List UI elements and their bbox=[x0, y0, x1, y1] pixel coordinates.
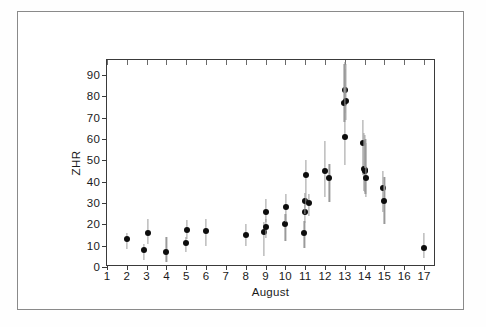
data-point bbox=[421, 245, 427, 251]
x-tick-label-6: 6 bbox=[203, 270, 210, 282]
figure-canvas: ZHR August 0102030405060708090 123456789… bbox=[0, 0, 486, 327]
data-point bbox=[163, 249, 169, 255]
error-bar bbox=[345, 69, 346, 165]
x-tick-label-10: 10 bbox=[279, 270, 292, 282]
x-tick-label-17: 17 bbox=[417, 270, 430, 282]
data-series-layer bbox=[107, 60, 434, 265]
data-point bbox=[363, 175, 369, 181]
error-bar bbox=[365, 143, 366, 196]
data-point bbox=[183, 240, 189, 246]
x-tick-label-9: 9 bbox=[262, 270, 269, 282]
x-tick-label-8: 8 bbox=[242, 270, 249, 282]
data-point bbox=[342, 134, 348, 140]
x-tick-label-3: 3 bbox=[143, 270, 150, 282]
y-tick-label-80: 80 bbox=[87, 90, 100, 102]
data-point bbox=[282, 221, 288, 227]
data-point bbox=[124, 236, 130, 242]
x-tick-label-7: 7 bbox=[223, 270, 230, 282]
x-tick-label-14: 14 bbox=[358, 270, 371, 282]
data-point bbox=[141, 247, 147, 253]
y-tick-label-30: 30 bbox=[87, 197, 100, 209]
data-point bbox=[184, 227, 190, 233]
data-point bbox=[306, 200, 312, 206]
x-tick-label-16: 16 bbox=[398, 270, 411, 282]
data-point bbox=[381, 198, 387, 204]
y-tick-label-60: 60 bbox=[87, 133, 100, 145]
data-point bbox=[263, 224, 269, 230]
data-point bbox=[301, 230, 307, 236]
x-tick-label-13: 13 bbox=[338, 270, 351, 282]
x-tick-label-5: 5 bbox=[183, 270, 190, 282]
y-axis-title: ZHR bbox=[70, 150, 82, 175]
data-point bbox=[283, 204, 289, 210]
data-point bbox=[243, 232, 249, 238]
data-point bbox=[322, 168, 328, 174]
error-bar bbox=[329, 164, 330, 202]
x-tick-label-2: 2 bbox=[124, 270, 131, 282]
y-tick-label-10: 10 bbox=[87, 240, 100, 252]
data-point bbox=[145, 230, 151, 236]
plot-area: ZHR August 0102030405060708090 123456789… bbox=[106, 59, 435, 266]
data-point bbox=[263, 209, 269, 215]
error-bar bbox=[305, 160, 306, 205]
y-tick-label-50: 50 bbox=[87, 154, 100, 166]
y-tick-label-40: 40 bbox=[87, 176, 100, 188]
y-tick-label-0: 0 bbox=[93, 261, 100, 273]
x-axis-title: August bbox=[252, 286, 290, 298]
x-tick-label-1: 1 bbox=[104, 270, 111, 282]
y-tick-label-20: 20 bbox=[87, 218, 100, 230]
x-tick-label-4: 4 bbox=[163, 270, 170, 282]
page-frame: ZHR August 0102030405060708090 123456789… bbox=[17, 11, 464, 310]
data-point bbox=[326, 175, 332, 181]
x-tick-label-15: 15 bbox=[378, 270, 391, 282]
x-tick-label-12: 12 bbox=[318, 270, 331, 282]
y-tick-label-90: 90 bbox=[87, 69, 100, 81]
y-tick-label-70: 70 bbox=[87, 112, 100, 124]
data-point bbox=[203, 228, 209, 234]
x-tick-label-11: 11 bbox=[299, 270, 311, 282]
data-point bbox=[303, 172, 309, 178]
